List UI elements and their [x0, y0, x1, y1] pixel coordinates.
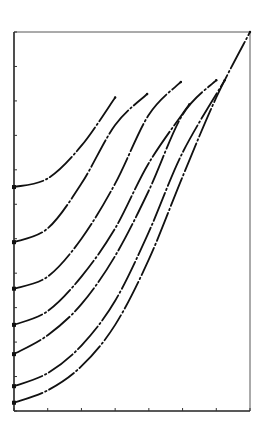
curve-2 [14, 94, 147, 242]
curve-start-marker [12, 384, 16, 388]
curve-start-marker [12, 401, 16, 405]
curve-start-marker [12, 240, 16, 244]
chart-frame [14, 32, 250, 411]
curve-start-marker [12, 352, 16, 356]
curve-start-marker [12, 185, 16, 189]
axis-ticks [14, 32, 250, 411]
curve-end-marker [215, 79, 217, 81]
curve-end-marker [146, 93, 148, 95]
curve-1 [14, 97, 115, 187]
curve-end-marker [114, 96, 116, 98]
curve-7 [14, 32, 250, 403]
curve-3 [14, 82, 181, 289]
curve-end-marker [249, 31, 251, 33]
curve-start-marker [12, 323, 16, 327]
curve-4 [14, 104, 189, 325]
curve-series [12, 31, 251, 405]
curve-6 [14, 80, 225, 386]
curve-end-marker [180, 81, 182, 83]
curve-start-marker [12, 287, 16, 291]
chart [0, 0, 266, 432]
